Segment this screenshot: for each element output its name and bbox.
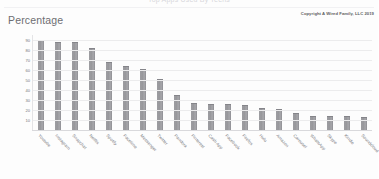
x-axis-tick-label: Hulu (258, 133, 268, 143)
gridline (32, 60, 372, 61)
x-label-slot: Spotify (100, 131, 117, 179)
x-label-slot: Skype (321, 131, 338, 179)
x-label-slot: Youtube (32, 131, 49, 179)
y-axis-tick-label: 30 (10, 98, 30, 103)
gridline (32, 70, 372, 71)
x-axis-tick-label: Soundcloud (360, 133, 379, 153)
x-label-slot: Kindle (338, 131, 355, 179)
bar (293, 113, 299, 130)
y-axis-tick-label: 70 (10, 58, 30, 63)
x-axis-tick-label: Skype (326, 133, 338, 145)
bar (191, 103, 197, 130)
x-axis-tick-label: Firefox (241, 133, 254, 146)
x-label-slot: Carousel (287, 131, 304, 179)
bar (344, 116, 350, 130)
x-axis-tick-label: Spotify (105, 133, 118, 146)
gridline (32, 50, 372, 51)
y-axis-line (32, 35, 33, 130)
bar (242, 105, 248, 130)
bar (225, 104, 231, 130)
x-axis-labels: YoutubeInstagramSnapchatNetflixSpotifyFa… (32, 131, 372, 179)
gridline (32, 40, 372, 41)
chart-title: Top Apps Used By Teens (148, 0, 230, 3)
x-label-slot: Soundcloud (355, 131, 372, 179)
bar (361, 117, 367, 130)
x-label-slot: Pandora (168, 131, 185, 179)
top-divider (4, 7, 374, 8)
y-axis-tick-label: 40 (10, 88, 30, 93)
bar (38, 40, 44, 130)
gridline (32, 110, 372, 111)
x-label-slot: Amazon (270, 131, 287, 179)
gridline (32, 120, 372, 121)
gridline (32, 90, 372, 91)
x-label-slot: Pinterest (185, 131, 202, 179)
bar (327, 116, 333, 130)
x-label-slot: Facebook (219, 131, 236, 179)
x-label-slot: Netflix (83, 131, 100, 179)
x-axis-tick-label: Kindle (343, 133, 355, 145)
bar (72, 42, 78, 130)
x-axis-tick-label: Twitter (156, 133, 169, 146)
bar (55, 42, 61, 130)
y-axis-tick-label: 10 (10, 118, 30, 123)
x-label-slot: Twitter (151, 131, 168, 179)
y-axis-tick-label: 20 (10, 108, 30, 113)
x-label-slot: Firefox (236, 131, 253, 179)
y-axis-title: Percentage (8, 14, 63, 26)
gridline (32, 100, 372, 101)
y-axis-tick-label: 80 (10, 48, 30, 53)
x-label-slot: Hulu (253, 131, 270, 179)
x-label-slot: Facetime (117, 131, 134, 179)
bar (157, 79, 163, 130)
gridline (32, 80, 372, 81)
y-axis-tick-label: 50 (10, 78, 30, 83)
x-label-slot: Messenger (134, 131, 151, 179)
y-axis-tick-label: 60 (10, 68, 30, 73)
x-label-slot: Cash App (202, 131, 219, 179)
x-label-slot: Snapchat (66, 131, 83, 179)
x-label-slot: Instagram (49, 131, 66, 179)
bar (259, 108, 265, 130)
bar (208, 104, 214, 130)
y-axis-tick-label: 90 (10, 38, 30, 43)
copyright-notice: Copyright A Wired Family, LLC 2019 (301, 11, 374, 16)
x-axis-tick-label: Netflix (88, 133, 100, 145)
bar (310, 116, 316, 130)
plot-area: 908070605040302010 (32, 35, 372, 130)
x-label-slot: WhatsApp (304, 131, 321, 179)
